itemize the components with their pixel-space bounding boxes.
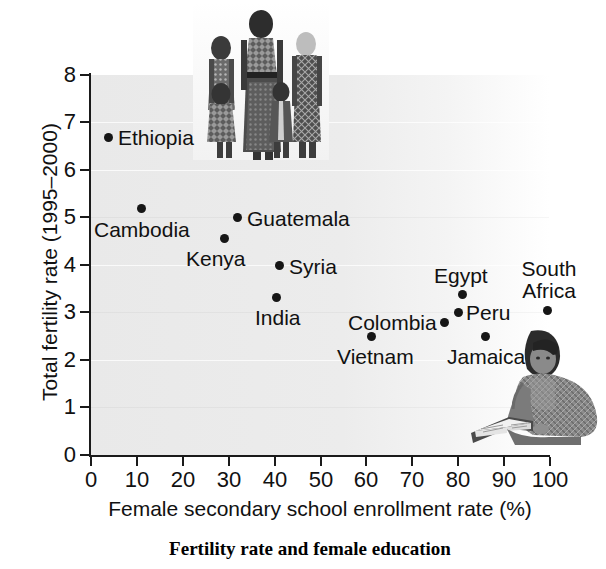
chart-title: Fertility rate and female education xyxy=(40,538,580,560)
data-label-jamaica: Jamaica xyxy=(447,346,525,367)
y-tick xyxy=(80,121,89,123)
y-tick xyxy=(80,169,89,171)
x-tick xyxy=(503,457,505,466)
x-tick xyxy=(136,457,138,466)
x-tick xyxy=(182,457,184,466)
x-tick xyxy=(411,457,413,466)
data-point-peru xyxy=(454,308,463,317)
fertility-education-scatter-figure: 8 7 6 5 4 3 2 1 0 0 10 20 30 40 50 60 70… xyxy=(0,0,606,569)
x-tick xyxy=(90,457,92,466)
x-tick xyxy=(228,457,230,466)
y-tick xyxy=(80,216,89,218)
data-point-colombia xyxy=(440,318,449,327)
data-label-vietnam: Vietnam xyxy=(337,346,414,367)
x-tick xyxy=(549,457,551,466)
data-label-kenya: Kenya xyxy=(186,248,246,269)
x-tick-label-100: 100 xyxy=(520,468,580,492)
y-tick xyxy=(80,74,89,76)
x-axis-title: Female secondary school enrollment rate … xyxy=(60,497,580,521)
y-tick xyxy=(80,406,89,408)
y-tick xyxy=(80,454,89,456)
data-point-india xyxy=(272,293,281,302)
y-tick xyxy=(80,264,89,266)
data-point-south-africa xyxy=(543,306,552,315)
data-point-jamaica xyxy=(481,332,490,341)
x-tick xyxy=(320,457,322,466)
y-axis-line xyxy=(89,73,91,457)
data-point-vietnam xyxy=(367,332,376,341)
data-point-kenya xyxy=(220,234,229,243)
x-tick xyxy=(365,457,367,466)
data-label-cambodia: Cambodia xyxy=(94,219,190,240)
data-point-egypt xyxy=(458,290,467,299)
data-point-syria xyxy=(275,261,284,270)
data-point-guatemala xyxy=(233,213,242,222)
x-tick xyxy=(274,457,276,466)
x-tick xyxy=(457,457,459,466)
data-label-syria: Syria xyxy=(289,256,337,277)
y-tick xyxy=(80,359,89,361)
data-label-guatemala: Guatemala xyxy=(247,208,350,229)
data-point-cambodia xyxy=(137,204,146,213)
y-tick xyxy=(80,311,89,313)
data-label-india: India xyxy=(255,307,301,328)
y-axis-title: Total fertility rate (1995–2000) xyxy=(38,62,62,462)
data-label-south-africa: South Africa xyxy=(506,258,592,302)
data-label-ethiopia: Ethiopia xyxy=(118,127,194,148)
data-label-egypt: Egypt xyxy=(434,265,488,286)
data-label-peru: Peru xyxy=(466,302,510,323)
family-photo xyxy=(193,2,329,160)
data-point-ethiopia xyxy=(104,133,113,142)
data-label-colombia: Colombia xyxy=(348,312,437,333)
gridline xyxy=(90,170,549,171)
